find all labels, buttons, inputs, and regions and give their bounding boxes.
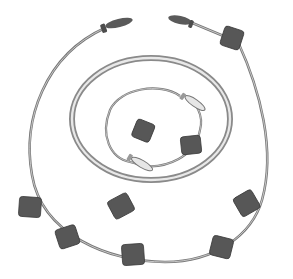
bean-bag xyxy=(131,118,156,143)
bean-bag xyxy=(107,192,136,220)
inner-jump-rope xyxy=(106,88,207,173)
handle-icon xyxy=(167,14,194,29)
bean-bag xyxy=(180,135,202,155)
bean-bag xyxy=(18,196,41,217)
handle-icon xyxy=(100,16,134,34)
bean-bag xyxy=(54,224,80,250)
jump-rope-beanbag-illustration xyxy=(0,0,293,279)
handle-icon xyxy=(179,92,207,112)
hoop xyxy=(72,58,230,180)
illustration xyxy=(0,0,293,279)
bean-bag xyxy=(121,243,144,265)
bean-bag xyxy=(209,235,234,259)
